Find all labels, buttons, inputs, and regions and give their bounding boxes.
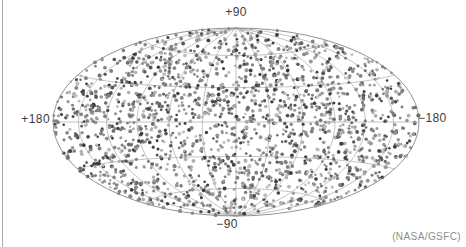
latitude-label-minus90: −90 bbox=[204, 217, 250, 231]
latitude-label-plus90: +90 bbox=[213, 5, 259, 19]
longitude-label-minus180: −180 bbox=[418, 111, 464, 125]
sky-map bbox=[0, 0, 466, 247]
longitude-label-plus180: +180 bbox=[2, 112, 50, 126]
credit-label: (NASA/GSFC) bbox=[392, 231, 461, 242]
